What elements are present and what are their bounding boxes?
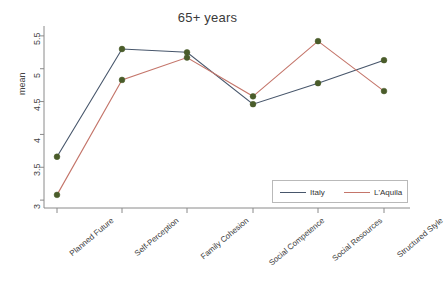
- legend: Italy L'Aquila: [272, 180, 408, 203]
- data-point: [54, 192, 60, 198]
- series-line-1: [57, 41, 384, 195]
- data-point: [250, 93, 256, 99]
- legend-label-laquila: L'Aquila: [374, 188, 402, 197]
- data-point: [184, 49, 190, 55]
- data-point: [54, 154, 60, 160]
- legend-swatch-laquila: [344, 192, 370, 193]
- data-point: [119, 77, 125, 83]
- data-point: [381, 57, 387, 63]
- legend-label-italy: Italy: [310, 188, 325, 197]
- legend-item-italy[interactable]: Italy: [280, 186, 325, 199]
- data-point: [250, 101, 256, 107]
- data-point: [381, 88, 387, 94]
- data-point: [315, 80, 321, 86]
- data-point: [315, 38, 321, 44]
- legend-item-laquila[interactable]: L'Aquila: [344, 186, 402, 199]
- data-point: [119, 46, 125, 52]
- series-line-0: [57, 49, 384, 157]
- legend-swatch-italy: [280, 192, 306, 193]
- data-point: [184, 55, 190, 61]
